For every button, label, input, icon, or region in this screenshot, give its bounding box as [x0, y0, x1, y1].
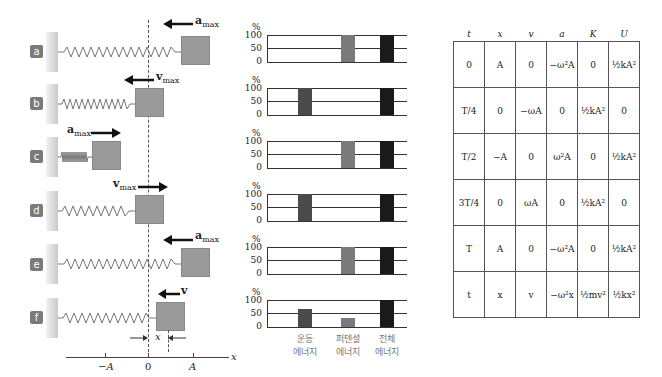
total-energy-bar — [380, 247, 394, 274]
gridline-0 — [267, 168, 407, 169]
cell: −ωA — [516, 88, 547, 134]
cell: 0 — [609, 88, 640, 134]
cell: T/4 — [454, 88, 485, 134]
gridline-0 — [267, 62, 407, 63]
cell: ωA — [516, 180, 547, 226]
tick-label-a: A — [189, 361, 196, 372]
arrow-left-icon — [163, 235, 193, 245]
tick-100: 100 — [242, 189, 262, 199]
total-energy-bar — [380, 300, 394, 327]
mass-block — [156, 302, 185, 331]
potential-energy-bar — [341, 35, 355, 62]
cell: T — [454, 226, 485, 272]
cell: −ω²A — [547, 42, 578, 88]
header-u: U — [609, 27, 640, 42]
wall — [46, 84, 58, 124]
energy-chart-a: % 100 50 0 — [252, 22, 412, 66]
cell: 0 — [516, 42, 547, 88]
energy-chart-c: % 100 50 0 — [252, 128, 412, 172]
displacement-label: x — [155, 331, 161, 342]
tick-50: 50 — [242, 96, 262, 106]
acceleration-max-label: amax — [195, 229, 219, 244]
header-v: v — [516, 27, 547, 42]
acceleration-max-label: amax — [67, 123, 91, 138]
tick-50: 50 — [242, 202, 262, 212]
gridline-0 — [267, 327, 407, 328]
cell: ½kA² — [578, 88, 609, 134]
kinetic-energy-bar — [298, 194, 312, 221]
velocity-label: v — [181, 284, 187, 299]
cell: 0 — [454, 42, 485, 88]
total-energy-bar — [380, 88, 394, 115]
table-row: T A 0 −ω²A 0 ½kA² — [454, 226, 640, 272]
mass-block — [181, 36, 210, 65]
cell: v — [516, 272, 547, 318]
cell: 0 — [578, 42, 609, 88]
wall — [46, 137, 58, 177]
total-energy-bar — [380, 141, 394, 168]
arrow-right-icon — [91, 128, 121, 138]
gridline-0 — [267, 115, 407, 116]
wall — [46, 298, 58, 338]
cell: −A — [485, 134, 516, 180]
axis-label-x: x — [231, 351, 237, 362]
cell: x — [485, 272, 516, 318]
mass-block — [181, 248, 210, 277]
row-label-f: f — [30, 311, 43, 324]
cell: 0 — [516, 134, 547, 180]
shm-values-table: t x v a K U 0 A 0 −ω²A 0 ½kA² T/4 0 −ωA … — [453, 27, 640, 318]
cell: 0 — [485, 180, 516, 226]
tick-a — [193, 353, 194, 357]
cell: 3T/4 — [454, 180, 485, 226]
tick-label-neg-a: −A — [98, 361, 114, 372]
tick-100: 100 — [242, 242, 262, 252]
tick-neg-a — [105, 353, 106, 357]
cell: 0 — [485, 88, 516, 134]
velocity-max-label: vmax — [156, 70, 179, 85]
row-label-b: b — [30, 97, 43, 110]
mass-block — [135, 195, 164, 224]
tick-0: 0 — [242, 268, 262, 278]
tick-100: 100 — [242, 30, 262, 40]
velocity-max-label: vmax — [113, 177, 136, 192]
cell: 0 — [547, 180, 578, 226]
cell: ½kA² — [609, 134, 640, 180]
wall — [46, 32, 58, 72]
spring-compressed — [58, 149, 94, 165]
mass-block — [135, 88, 164, 117]
gridline-0 — [267, 221, 407, 222]
energy-chart-d: % 100 50 0 — [252, 181, 412, 225]
tick-50: 50 — [242, 149, 262, 159]
cell: t — [454, 272, 485, 318]
energy-chart-f: % 100 50 0 — [252, 287, 412, 331]
cell: 0 — [609, 180, 640, 226]
row-label-d: d — [30, 204, 43, 217]
cell: A — [485, 226, 516, 272]
cell: T/2 — [454, 134, 485, 180]
potential-energy-bar — [341, 247, 355, 274]
spring — [58, 44, 182, 60]
table-header-row: t x v a K U — [454, 27, 640, 42]
row-label-c: c — [30, 150, 43, 163]
row-label-e: e — [30, 258, 43, 271]
tick-0: 0 — [242, 162, 262, 172]
row-label-a: a — [30, 45, 43, 58]
energy-chart-e: % 100 50 0 — [252, 234, 412, 278]
cell: 0 — [578, 226, 609, 272]
cell: ½mv² — [578, 272, 609, 318]
table-row: T/2 −A 0 ω²A 0 ½kA² — [454, 134, 640, 180]
header-x: x — [485, 27, 516, 42]
cell: −ω²x — [547, 272, 578, 318]
total-energy-label: 전체 에너지 — [367, 333, 407, 359]
cell: A — [485, 42, 516, 88]
tick-0: 0 — [242, 109, 262, 119]
cell: 0 — [578, 134, 609, 180]
axis-line — [66, 357, 229, 358]
tick-50: 50 — [242, 43, 262, 53]
kinetic-energy-bar — [298, 88, 312, 115]
tick-0: 0 — [242, 56, 262, 66]
spring — [58, 310, 156, 326]
total-energy-bar — [380, 35, 394, 62]
table-row: 3T/4 0 ωA 0 ½kA² 0 — [454, 180, 640, 226]
potential-energy-bar — [341, 141, 355, 168]
